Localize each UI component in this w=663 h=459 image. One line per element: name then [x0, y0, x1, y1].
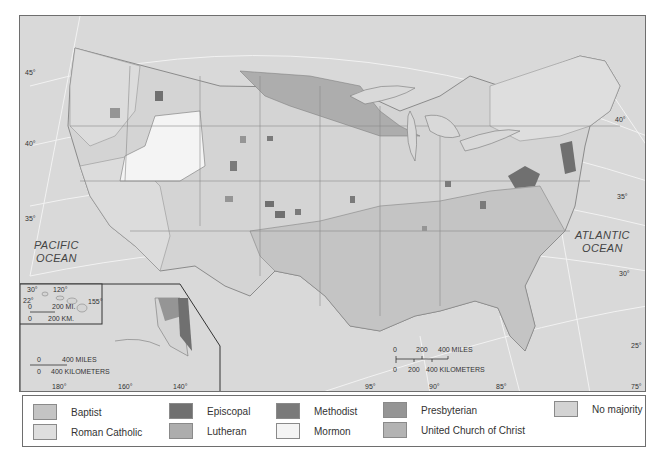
swatch-mormon — [276, 423, 300, 439]
swatch-presbyterian — [383, 402, 407, 418]
lat-35-east-label: 35° — [617, 193, 628, 200]
lon-95-label: 95° — [365, 383, 376, 390]
legend-label: Mormon — [314, 426, 351, 437]
ocean-word: OCEAN — [575, 242, 630, 255]
map-legend: Baptist Roman Catholic Episcopal Luthera… — [22, 395, 646, 447]
hawaii-scale-miles-200: 200 MI. — [52, 303, 75, 310]
hawaii-scale-km-0: 0 — [28, 315, 32, 322]
legend-item-baptist: Baptist — [33, 404, 102, 420]
lon-155-label: 155° — [88, 298, 102, 305]
lon-120-label: 120° — [53, 286, 67, 293]
scale-miles-200: 200 — [416, 346, 428, 353]
swatch-methodist — [276, 403, 300, 419]
lat-30-west-label: 30° — [27, 286, 38, 293]
lat-40-east-label: 40° — [615, 116, 626, 123]
us-map-graphic — [20, 16, 646, 392]
legend-item-no-majority: No majority — [554, 401, 643, 417]
swatch-no-majority — [554, 401, 578, 417]
legend-label: Lutheran — [207, 426, 246, 437]
lat-25-east-label: 25° — [631, 342, 642, 349]
legend-item-roman-catholic: Roman Catholic — [33, 424, 142, 440]
lon-180-label: 180° — [52, 383, 66, 390]
swatch-united-church-of-christ — [383, 422, 407, 438]
alaska-scale-km-0: 0 — [37, 368, 41, 375]
legend-item-lutheran: Lutheran — [169, 423, 246, 439]
scale-km-0: 0 — [393, 366, 397, 373]
lat-30-east-label: 30° — [619, 270, 630, 277]
pacific-word: PACIFIC — [34, 239, 79, 252]
lat-45-label: 45° — [25, 69, 36, 76]
lon-140-label: 140° — [173, 383, 187, 390]
legend-item-mormon: Mormon — [276, 423, 351, 439]
legend-label: Methodist — [314, 406, 357, 417]
alaska-scale-miles-400: 400 MILES — [62, 356, 97, 363]
legend-item-united-church-of-christ: United Church of Christ — [383, 422, 525, 438]
pacific-ocean-label: PACIFIC OCEAN — [34, 239, 79, 265]
legend-label: Presbyterian — [421, 405, 477, 416]
scale-miles-400: 400 MILES — [438, 346, 473, 353]
swatch-baptist — [33, 404, 57, 420]
religion-map: PACIFIC OCEAN ATLANTIC OCEAN 45° 40° 35°… — [19, 15, 646, 392]
alaska-scale-km-400: 400 KILOMETERS — [51, 368, 110, 375]
scale-miles-0: 0 — [393, 346, 397, 353]
lat-35-west-label: 35° — [25, 215, 36, 222]
legend-label: Baptist — [71, 407, 102, 418]
legend-item-presbyterian: Presbyterian — [383, 402, 477, 418]
lat-40-west-label: 40° — [25, 140, 36, 147]
atlantic-ocean-label: ATLANTIC OCEAN — [575, 229, 630, 255]
alaska-scale-miles-0: 0 — [37, 356, 41, 363]
scale-km-200: 200 — [408, 366, 420, 373]
lon-75-label: 75° — [631, 383, 642, 390]
lon-160-label: 160° — [118, 383, 132, 390]
lon-90-label: 90° — [429, 383, 440, 390]
hawaii-scale-km-200: 200 KM. — [48, 315, 74, 322]
legend-label: United Church of Christ — [421, 425, 525, 436]
legend-item-episcopal: Episcopal — [169, 403, 250, 419]
swatch-episcopal — [169, 403, 193, 419]
legend-item-methodist: Methodist — [276, 403, 357, 419]
legend-label: No majority — [592, 404, 643, 415]
legend-label: Episcopal — [207, 406, 250, 417]
ocean-word: OCEAN — [34, 252, 79, 265]
hawaii-scale-miles-0: 0 — [28, 303, 32, 310]
scale-km-400: 400 KILOMETERS — [426, 366, 485, 373]
lon-85-label: 85° — [496, 383, 507, 390]
swatch-lutheran — [169, 423, 193, 439]
atlantic-word: ATLANTIC — [575, 229, 630, 242]
swatch-roman-catholic — [33, 424, 57, 440]
legend-label: Roman Catholic — [71, 427, 142, 438]
